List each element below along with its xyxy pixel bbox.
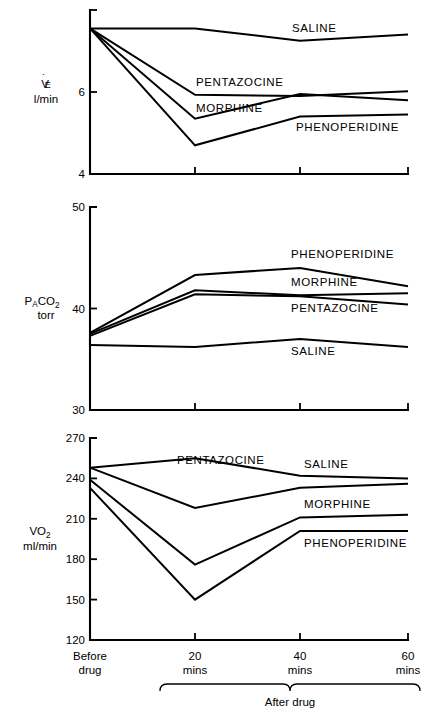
- y-axis-title: VO2ml/min: [23, 525, 57, 552]
- y-axis-title: V˙El/min: [34, 72, 58, 105]
- series-label-saline: SALINE: [291, 345, 336, 357]
- y-tick-label: 6: [79, 86, 85, 98]
- series-label-phenoperidine: PHENOPERIDINE: [296, 121, 399, 133]
- y-axis-title-main: VO2: [29, 525, 51, 540]
- panel-1: 46SALINEPENTAZOCINEMORPHINEPHENOPERIDINE…: [34, 10, 408, 180]
- x-axis-label-1: 20mins: [183, 650, 208, 676]
- x-axis-labels: Beforedrug20mins40mins60mins: [73, 650, 420, 676]
- series-label-pentazocine: PENTAZOCINE: [291, 302, 379, 314]
- series-label-morphine: MORPHINE: [196, 102, 263, 114]
- y-tick-label: 30: [72, 404, 85, 416]
- series-label-saline: SALINE: [292, 22, 337, 34]
- y-tick-label: 240: [66, 472, 85, 484]
- panel-2: 304050PHENOPERIDINEMORPHINEPENTAZOCINESA…: [25, 201, 408, 416]
- series-label-pentazocine: PENTAZOCINE: [177, 454, 265, 466]
- y-tick-label: 210: [66, 513, 85, 525]
- y-tick-label: 120: [66, 634, 85, 646]
- series-label-saline: SALINE: [304, 458, 349, 470]
- multi-panel-line-chart: 46SALINEPENTAZOCINEMORPHINEPHENOPERIDINE…: [0, 0, 443, 722]
- series-label-phenoperidine: PHENOPERIDINE: [291, 248, 394, 260]
- x-axis-label-0: Beforedrug: [73, 650, 107, 676]
- after-drug-brace: [160, 684, 420, 691]
- series-line-morphine: [90, 480, 408, 565]
- y-axis-title: PACO2torr: [25, 295, 60, 321]
- series-label-morphine: MORPHINE: [291, 276, 358, 288]
- y-axis-title-units: ml/min: [23, 540, 57, 552]
- y-axis-title-units: l/min: [34, 93, 58, 105]
- x-axis-label-3: 60mins: [396, 650, 421, 676]
- y-tick-label: 40: [72, 303, 85, 315]
- y-axis-title-main: PACO2: [25, 295, 60, 310]
- y-tick-label: 50: [72, 201, 85, 213]
- figure-container: 46SALINEPENTAZOCINEMORPHINEPHENOPERIDINE…: [0, 0, 443, 722]
- series-label-phenoperidine: PHENOPERIDINE: [304, 537, 407, 549]
- y-axis-title-main: V˙E: [41, 72, 50, 90]
- series-label-pentazocine: PENTAZOCINE: [196, 76, 284, 88]
- y-axis-title-units: torr: [37, 309, 54, 321]
- after-drug-label: After drug: [265, 696, 316, 708]
- series-line-saline: [90, 339, 408, 347]
- y-tick-label: 150: [66, 594, 85, 606]
- y-tick-label: 270: [66, 432, 85, 444]
- y-tick-label: 4: [79, 168, 86, 180]
- series-line-saline: [90, 28, 408, 40]
- series-label-morphine: MORPHINE: [304, 498, 371, 510]
- panel-3: 120150180210240270SALINEPENTAZOCINEMORPH…: [23, 432, 408, 646]
- x-axis-label-2: 40mins: [288, 650, 313, 676]
- y-tick-label: 180: [66, 553, 85, 565]
